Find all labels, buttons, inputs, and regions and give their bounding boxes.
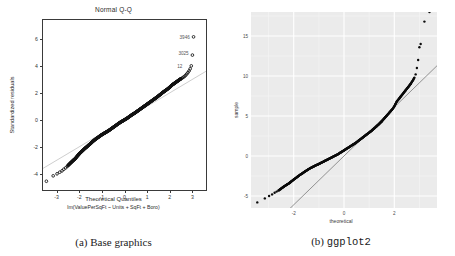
caption-a-text: Base graphics (90, 236, 151, 248)
base-plot-canvas (43, 20, 206, 190)
panel-base-graphics: Normal Q-Q -3-2-10123 6420-2-4 394630251… (0, 0, 227, 256)
base-y-tick-label: -2 (26, 144, 38, 150)
base-y-tick-label: 6 (26, 36, 38, 42)
base-x-tick (192, 190, 193, 193)
base-x-tick (125, 190, 126, 193)
base-subtitle-formula: lm(ValuePerSqFt ~ Units + SqFt + Boro) (0, 204, 227, 210)
base-x-tick (57, 190, 58, 193)
panel-ggplot2: -202 -5051015 theoretical sample (b) ggp… (227, 0, 455, 256)
base-y-tick (40, 66, 43, 67)
caption-b-prefix: (b) (311, 235, 324, 247)
base-y-axis-label: Standardized residuals (9, 77, 15, 134)
caption-a-prefix: (a) (75, 236, 87, 248)
caption-ggplot2: (b) ggplot2 (227, 235, 455, 248)
base-x-axis-label: Theoretical Quantiles (0, 196, 227, 202)
base-outlier-label: 3946 (180, 35, 190, 40)
base-y-tick-label: 0 (26, 117, 38, 123)
base-y-tick (40, 174, 43, 175)
base-y-tick-label: 2 (26, 90, 38, 96)
base-x-tick (79, 190, 80, 193)
base-y-tick-label: -4 (26, 171, 38, 177)
base-outlier-label: 3025 (178, 51, 188, 56)
base-y-tick (40, 120, 43, 121)
base-x-tick (170, 190, 171, 193)
caption-b-text: ggplot2 (327, 236, 371, 248)
base-y-tick (40, 93, 43, 94)
ggplot-x-tick-label: 0 (343, 211, 346, 216)
ggplot-y-tick-label: 0 (236, 154, 248, 159)
ggplot-panel-area (251, 12, 437, 208)
ggplot-x-tick-label: -2 (292, 211, 296, 216)
base-plot-area (42, 19, 207, 191)
ggplot-y-tick-label: 15 (236, 34, 248, 39)
base-y-tick (40, 147, 43, 148)
ggplot-y-tick-label: 10 (236, 74, 248, 79)
figure-container: Normal Q-Q -3-2-10123 6420-2-4 394630251… (0, 0, 455, 256)
ggplot-y-axis-label: sample (233, 102, 239, 118)
ggplot-y-tick-label: -5 (236, 194, 248, 199)
ggplot-canvas (251, 12, 437, 208)
base-x-tick (102, 190, 103, 193)
base-y-tick (40, 39, 43, 40)
ggplot-x-axis-label: theoretical (227, 218, 455, 224)
base-outlier-label: 12 (177, 64, 182, 69)
caption-base-graphics: (a) Base graphics (0, 236, 227, 248)
base-y-tick-label: 4 (26, 63, 38, 69)
base-x-tick (147, 190, 148, 193)
base-plot-title: Normal Q-Q (0, 6, 227, 13)
ggplot-x-tick-label: 2 (393, 211, 396, 216)
